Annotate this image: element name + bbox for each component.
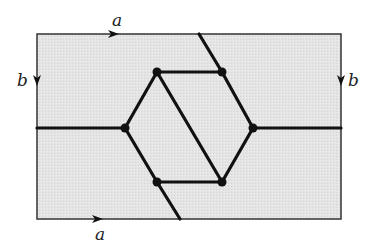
label-top-a: a <box>112 10 122 30</box>
vertex-v5 <box>153 178 162 187</box>
label-left-b: b <box>17 70 28 90</box>
vertex-v2 <box>218 68 227 77</box>
diagram-canvas: a a b b <box>0 0 372 249</box>
vertex-v3 <box>121 124 130 133</box>
label-bottom-a: a <box>95 224 105 244</box>
label-right-b: b <box>348 70 359 90</box>
vertex-v1 <box>153 68 162 77</box>
vertex-v4 <box>249 124 258 133</box>
vertex-v6 <box>218 178 227 187</box>
torus-graph-diagram: a a b b <box>0 0 372 249</box>
